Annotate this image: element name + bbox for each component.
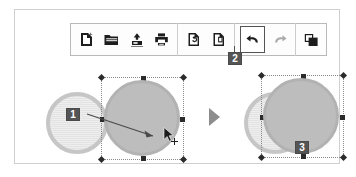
redo-button[interactable]: [269, 28, 290, 52]
save-disk-icon: [130, 32, 144, 47]
toolbar-group-arrange: [296, 24, 324, 55]
new-document-button[interactable]: [76, 28, 97, 52]
drag-arrow-annotation: [87, 110, 169, 146]
resize-handle-top-right[interactable]: [180, 74, 187, 81]
toolbar-group-history: [235, 24, 295, 55]
open-folder-button[interactable]: [101, 28, 122, 52]
redo-arrow-icon: [272, 33, 288, 47]
resize-handle-middle-right[interactable]: [180, 117, 185, 122]
page-next-icon: [212, 32, 226, 47]
toolbar: [70, 23, 327, 56]
screenshot-root: 1 2 3: [0, 0, 356, 177]
callout-badge-2: 2: [228, 52, 242, 65]
new-document-icon: [80, 32, 94, 47]
illustration-frame: [14, 9, 340, 164]
callout-badge-3: 3: [295, 141, 309, 154]
undo-button[interactable]: [240, 26, 265, 53]
new-page-button[interactable]: [208, 28, 229, 52]
resize-handle-top-left[interactable]: [258, 72, 265, 79]
resize-handle-bottom-center[interactable]: [141, 156, 146, 161]
printer-icon: [154, 32, 169, 47]
reload-page-button[interactable]: [183, 28, 204, 52]
copy-shapes-icon: [304, 33, 319, 47]
callout-badge-1: 1: [66, 108, 80, 121]
resize-handle-bottom-left[interactable]: [258, 154, 265, 161]
resize-handle-top-right[interactable]: [340, 72, 347, 79]
duplicate-button[interactable]: [301, 28, 322, 52]
open-folder-icon: [104, 33, 119, 46]
print-button[interactable]: [151, 28, 172, 52]
resize-handle-middle-right[interactable]: [340, 115, 345, 120]
toolbar-group-file: [71, 24, 177, 55]
save-button[interactable]: [126, 28, 147, 52]
resize-handle-bottom-right[interactable]: [180, 156, 187, 163]
mouse-cursor-move-icon: [163, 127, 179, 147]
toolbar-group-page: [178, 24, 234, 55]
resize-handle-top-left[interactable]: [98, 74, 105, 81]
resize-handle-bottom-right[interactable]: [340, 154, 347, 161]
flow-arrow-icon: [209, 108, 220, 126]
resize-handle-bottom-center[interactable]: [301, 154, 306, 159]
page-refresh-icon: [187, 32, 201, 47]
resize-handle-bottom-left[interactable]: [98, 156, 105, 163]
undo-arrow-icon: [245, 33, 261, 47]
